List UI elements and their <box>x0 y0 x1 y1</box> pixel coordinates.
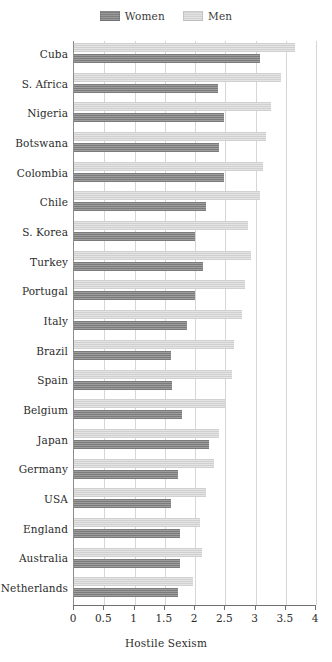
bar-men-brazil <box>74 340 234 349</box>
x-tick-label: 1.5 <box>155 612 172 624</box>
x-axis-title: Hostile Sexism <box>0 637 332 649</box>
bar-women-turkey <box>74 262 203 271</box>
bar-men-australia <box>74 548 202 557</box>
bar-men-colombia <box>74 162 263 171</box>
bar-men-s-korea <box>74 221 248 230</box>
bar-men-cuba <box>74 43 295 52</box>
legend-label-women: Women <box>125 10 165 22</box>
x-tick <box>103 605 104 610</box>
x-tick-label: 0 <box>70 612 77 624</box>
bar-men-botswana <box>74 132 266 141</box>
bar-women-s-africa <box>74 84 218 93</box>
bar-men-portugal <box>74 280 245 289</box>
bar-men-japan <box>74 429 219 438</box>
category-label-netherlands: Netherlands <box>1 582 68 594</box>
hostile-sexism-bar-chart: Women Men CubaS. AfricaNigeriaBotswanaCo… <box>0 0 332 662</box>
x-tick <box>224 605 225 610</box>
category-label-spain: Spain <box>37 374 68 386</box>
category-label-s-korea: S. Korea <box>22 226 68 238</box>
x-tick <box>194 605 195 610</box>
bar-women-germany <box>74 470 178 479</box>
category-label-cuba: Cuba <box>40 48 68 60</box>
x-tick <box>285 605 286 610</box>
legend-swatch-men-icon <box>183 11 203 21</box>
gridline <box>316 41 317 605</box>
category-label-brazil: Brazil <box>36 345 68 357</box>
category-label-australia: Australia <box>19 552 68 564</box>
x-tick-label: 3 <box>251 612 258 624</box>
bar-women-netherlands <box>74 588 178 597</box>
bar-men-spain <box>74 370 232 379</box>
bar-women-belgium <box>74 410 182 419</box>
x-tick-label: 1 <box>130 612 137 624</box>
category-label-colombia: Colombia <box>17 167 68 179</box>
x-tick-label: 0.5 <box>95 612 112 624</box>
bar-men-netherlands <box>74 577 193 586</box>
bar-men-turkey <box>74 251 251 260</box>
legend-entry-men: Men <box>183 10 232 22</box>
x-tick-label: 2 <box>191 612 198 624</box>
bar-women-nigeria <box>74 113 224 122</box>
bar-women-spain <box>74 381 172 390</box>
category-label-chile: Chile <box>40 196 68 208</box>
x-tick <box>164 605 165 610</box>
bar-men-germany <box>74 459 214 468</box>
bar-women-italy <box>74 321 187 330</box>
category-label-belgium: Belgium <box>23 404 68 416</box>
bar-women-brazil <box>74 351 171 360</box>
gridline <box>225 41 226 605</box>
category-label-portugal: Portugal <box>22 285 68 297</box>
bar-women-usa <box>74 499 171 508</box>
category-label-germany: Germany <box>19 463 68 475</box>
bar-men-nigeria <box>74 102 271 111</box>
gridline <box>256 41 257 605</box>
bar-women-botswana <box>74 143 219 152</box>
category-label-usa: USA <box>44 493 68 505</box>
bar-men-belgium <box>74 399 225 408</box>
bar-women-japan <box>74 440 209 449</box>
bar-women-cuba <box>74 54 260 63</box>
category-label-nigeria: Nigeria <box>27 107 68 119</box>
bar-men-italy <box>74 310 242 319</box>
x-tick-label: 2.5 <box>216 612 233 624</box>
bar-women-chile <box>74 202 206 211</box>
bar-men-s-africa <box>74 73 281 82</box>
bar-men-england <box>74 518 200 527</box>
category-label-england: England <box>23 523 68 535</box>
x-tick <box>134 605 135 610</box>
x-tick-label: 4 <box>312 612 319 624</box>
category-label-s-africa: S. Africa <box>22 78 68 90</box>
category-label-turkey: Turkey <box>30 256 68 268</box>
x-tick-label: 3.5 <box>276 612 293 624</box>
x-tick <box>315 605 316 610</box>
chart-legend: Women Men <box>0 8 332 24</box>
bar-women-australia <box>74 559 180 568</box>
category-label-italy: Italy <box>44 315 68 327</box>
category-label-botswana: Botswana <box>15 137 68 149</box>
bar-women-portugal <box>74 291 195 300</box>
legend-label-men: Men <box>208 10 232 22</box>
bar-women-colombia <box>74 173 224 182</box>
bar-men-chile <box>74 191 260 200</box>
bar-women-england <box>74 529 180 538</box>
bar-men-usa <box>74 488 206 497</box>
x-tick <box>255 605 256 610</box>
legend-entry-women: Women <box>100 10 165 22</box>
bar-women-s-korea <box>74 232 195 241</box>
legend-swatch-women-icon <box>100 11 120 21</box>
plot-area <box>73 41 315 605</box>
gridline <box>286 41 287 605</box>
x-tick <box>73 605 74 610</box>
category-label-japan: Japan <box>37 434 68 446</box>
